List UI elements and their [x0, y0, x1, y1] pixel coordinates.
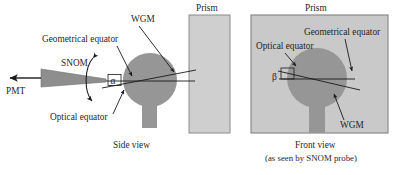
- snom-label: SNOM: [61, 58, 88, 68]
- front-view-caption-line2: (as seen by SNOM probe): [265, 153, 357, 163]
- geometrical-equator-label-front: Geometrical equator: [304, 27, 381, 37]
- prism-label-front: Prism: [305, 3, 327, 13]
- microsphere-front: [287, 48, 347, 108]
- optical-equator-label-front: Optical equator: [256, 41, 314, 51]
- front-view-caption-line1: Front view: [295, 140, 336, 150]
- microsphere-side: [123, 53, 177, 107]
- prism-label-side: Prism: [196, 3, 218, 13]
- wgm-label-front: WGM: [340, 120, 364, 130]
- geometrical-equator-label-side: Geometrical equator: [42, 34, 119, 44]
- wgm-label-side: WGM: [131, 14, 155, 24]
- beta-angle-label: β: [272, 72, 277, 82]
- optical-equator-label-side: Optical equator: [50, 112, 108, 122]
- wgm-snom-diagram: α WGM Geometrical equator Optical equato…: [0, 0, 393, 175]
- microsphere-stem-front: [309, 104, 325, 133]
- prism-shape-side: [189, 15, 230, 133]
- side-view-caption: Side view: [113, 140, 150, 150]
- diagram-canvas: α WGM Geometrical equator Optical equato…: [0, 0, 393, 175]
- alpha-angle-label: α: [111, 76, 116, 86]
- pmt-label: PMT: [6, 86, 25, 96]
